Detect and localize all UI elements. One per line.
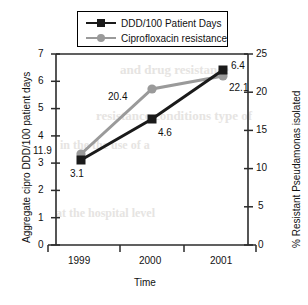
y-axis-title-left: Aggregate cipro DDD/100 patient days — [22, 72, 32, 243]
x-tick-2001: 2001 — [210, 256, 232, 266]
chart-figure: and drug resistance resistance condition… — [0, 0, 308, 305]
y-axis-title-right: % Resistant Pseudamonas isolated — [292, 91, 302, 248]
left-tick-7: 7 — [38, 49, 44, 59]
legend-square-marker-icon — [86, 17, 116, 29]
right-tick-10: 10 — [256, 163, 267, 173]
right-tick-20: 20 — [256, 87, 267, 97]
right-tick-0: 0 — [258, 240, 264, 250]
legend-item-ddd: DDD/100 Patient Days — [86, 16, 222, 30]
left-tick-1: 1 — [38, 213, 44, 223]
data-label-resistance-2000: 20.4 — [108, 91, 127, 102]
left-tick-6: 6 — [38, 76, 44, 86]
left-tick-2: 2 — [38, 185, 44, 195]
x-tick-1999: 1999 — [68, 256, 90, 266]
x-axis-ticks — [48, 245, 256, 252]
data-label-resistance-2001: 22.1 — [229, 82, 248, 93]
right-tick-25: 25 — [256, 49, 267, 59]
left-tick-4: 4 — [38, 131, 44, 141]
left-tick-3: 3 — [38, 158, 44, 168]
legend-item-resistance: Ciprofloxacin resistance — [86, 31, 227, 45]
data-label-ddd-1999: 3.1 — [70, 168, 84, 179]
chart-legend: DDD/100 Patient Days Ciprofloxacin resis… — [77, 11, 228, 47]
data-label-ddd-2001: 6.4 — [231, 60, 245, 71]
right-tick-5: 5 — [258, 201, 264, 211]
x-axis-title: Time — [134, 278, 156, 288]
data-label-ddd-2000: 4.6 — [158, 127, 172, 138]
x-tick-2000: 2000 — [139, 256, 161, 266]
data-label-resistance-1999: 11.9 — [33, 145, 52, 156]
left-tick-0: 0 — [38, 240, 44, 250]
legend-label-resistance: Ciprofloxacin resistance — [121, 33, 227, 44]
plot-frame — [48, 54, 256, 245]
right-tick-15: 15 — [256, 125, 267, 135]
legend-label-ddd: DDD/100 Patient Days — [121, 18, 222, 29]
legend-circle-marker-icon — [86, 32, 116, 44]
left-tick-5: 5 — [38, 103, 44, 113]
